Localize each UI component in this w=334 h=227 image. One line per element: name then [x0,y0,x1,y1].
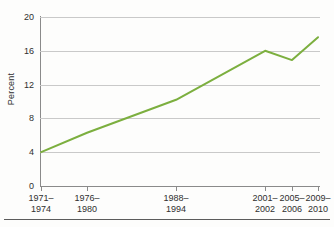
y-tick-label: 4 [8,147,34,157]
gridline-20 [40,17,320,18]
y-tick-label: 12 [8,80,34,90]
x-axis-label-5: 2005–2006 [279,193,304,215]
bottom-rule [4,219,330,220]
x-axis-label-4: 2001–2002 [253,193,278,215]
x-axis-label-2: 1976–1980 [75,193,100,215]
y-tick-label: 8 [8,113,34,123]
chart-figure: Percent 20 16 12 8 4 0 1971–19741976–198… [0,0,334,227]
y-tick-label: 16 [8,46,34,56]
plot-area [40,17,320,186]
x-tick-5 [292,186,293,191]
y-axis-tick-labels: 20 16 12 8 4 0 [6,17,34,186]
y-tick-label: 0 [8,181,34,191]
gridline-16 [40,51,320,52]
gridline-8 [40,118,320,119]
x-axis-ticks [40,186,320,192]
x-axis-tick-labels: 1971–19741976–19801988–19942001–20022005… [0,193,334,219]
gridline-4 [40,152,320,153]
gridline-12 [40,85,320,86]
x-axis-label-3: 1988–1994 [164,193,189,215]
x-tick-4 [265,186,266,191]
x-tick-6 [318,186,319,191]
x-axis-label-1: 1971–1974 [29,193,54,215]
x-tick-3 [176,186,177,191]
y-tick-label: 20 [8,12,34,22]
x-tick-1 [41,186,42,191]
x-tick-2 [87,186,88,191]
x-axis-label-6: 2009–2010 [306,193,331,215]
